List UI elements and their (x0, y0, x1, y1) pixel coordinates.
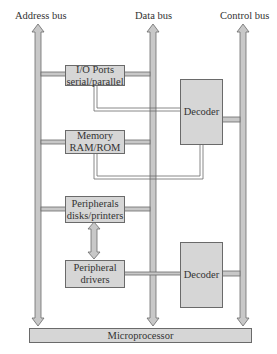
peripherals-title: Peripherals (71, 198, 118, 210)
data-bus-label: Data bus (135, 10, 172, 21)
peripheral-drivers-subtitle: drivers (80, 274, 109, 286)
memory-subtitle: RAM/ROM (70, 142, 121, 154)
decoder-top-block: Decoder (180, 79, 223, 145)
peripherals-block: Peripherals disks/printers (65, 196, 125, 223)
address-bus-arrow (32, 24, 44, 326)
decoder-top-label: Decoder (184, 106, 220, 118)
control-bus-arrow (237, 24, 249, 326)
microprocessor-label: Microprocessor (108, 330, 174, 342)
control-bus-label: Control bus (220, 10, 269, 21)
address-bus-label: Address bus (15, 10, 67, 21)
peripheral-drivers-block: Peripheral drivers (65, 260, 125, 288)
peripherals-drivers-arrow (88, 222, 100, 259)
memory-block: Memory RAM/ROM (65, 130, 125, 154)
io-ports-block: I/O Ports serial/parallel (65, 65, 125, 86)
data-bus-arrow (147, 24, 159, 326)
decoder-bottom-label: Decoder (184, 269, 220, 281)
memory-title: Memory (77, 130, 113, 142)
bus-wiring (0, 0, 277, 354)
peripheral-drivers-title: Peripheral (73, 262, 116, 274)
peripherals-subtitle: disks/printers (67, 210, 124, 222)
io-ports-subtitle: serial/parallel (66, 76, 123, 88)
decoder-bottom-block: Decoder (180, 242, 223, 308)
microprocessor-block: Microprocessor (29, 328, 252, 343)
io-ports-title: I/O Ports (76, 64, 114, 76)
